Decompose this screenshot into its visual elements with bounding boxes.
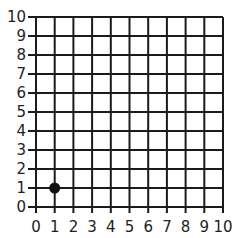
x-tick-label: 1 (50, 218, 60, 236)
y-tick-label: 2 (16, 160, 26, 178)
x-tick-label: 9 (200, 218, 210, 236)
y-tick-label: 6 (16, 84, 26, 102)
x-tick-label: 8 (181, 218, 191, 236)
x-tick-label: 0 (31, 218, 41, 236)
y-tick-label: 5 (16, 103, 26, 121)
x-tick-label: 3 (87, 218, 97, 236)
x-tick-label: 5 (125, 218, 135, 236)
y-tick-label: 9 (16, 27, 26, 45)
y-tick-label: 4 (16, 122, 26, 140)
y-tick-label: 7 (16, 65, 26, 83)
y-tick-label: 3 (16, 141, 26, 159)
x-tick-label: 10 (213, 218, 232, 236)
coordinate-grid-chart: 012345678910012345678910 (0, 0, 237, 238)
y-tick-label: 10 (7, 8, 26, 26)
x-tick-label: 4 (106, 218, 116, 236)
x-tick-label: 7 (162, 218, 172, 236)
y-tick-label: 8 (16, 46, 26, 64)
y-tick-label: 0 (16, 198, 26, 216)
x-tick-label: 2 (69, 218, 79, 236)
x-tick-label: 6 (143, 218, 153, 236)
data-point (49, 183, 60, 194)
y-tick-label: 1 (16, 179, 26, 197)
